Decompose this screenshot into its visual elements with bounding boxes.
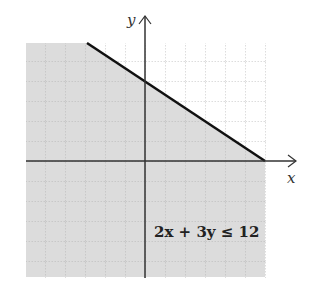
inequality-label: 2x + 3y ≤ 12 — [154, 223, 259, 241]
x-axis-label: x — [287, 169, 296, 187]
inequality-graph: x y 2x + 3y ≤ 12 — [0, 0, 311, 286]
y-axis-label: y — [126, 11, 136, 29]
